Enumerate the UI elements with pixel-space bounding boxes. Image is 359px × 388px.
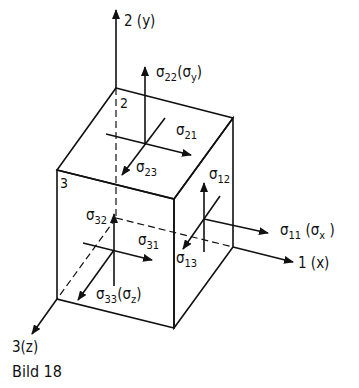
x-axis-arrow xyxy=(233,247,293,262)
sigma-13-arrow xyxy=(183,196,220,249)
sigma-31-label: σ31 xyxy=(138,231,159,252)
sigma-12-label: σ12 xyxy=(209,165,230,186)
corner-label-3: 3 xyxy=(60,175,68,191)
sigma-22-label: σ22(σy) xyxy=(156,63,202,84)
y-axis-label: 2 (y) xyxy=(124,12,155,30)
corner-label-2: 2 xyxy=(120,95,128,111)
sigma-23-label: σ23 xyxy=(136,158,157,179)
sigma-13-label: σ13 xyxy=(176,249,197,270)
z-axis-arrow xyxy=(32,299,57,334)
sigma-11-label: σ11 (σx ) xyxy=(280,221,335,242)
sigma-33-label: σ33(σz) xyxy=(96,285,141,306)
z-axis-label: 3(z) xyxy=(12,338,38,356)
figure-caption: Bild 18 xyxy=(12,362,62,381)
sigma-11-arrow xyxy=(204,219,268,233)
right-face-stresses xyxy=(183,183,268,252)
sigma-21-label: σ21 xyxy=(176,121,197,142)
x-axis-label: 1 (x) xyxy=(298,254,329,272)
stress-cube-diagram: 2 (y) 1 (x) 3(z) 2 3 σ22(σy) σ21 σ23 σ12… xyxy=(0,0,359,388)
sigma-32-label: σ32 xyxy=(86,206,107,227)
axes xyxy=(32,10,293,334)
